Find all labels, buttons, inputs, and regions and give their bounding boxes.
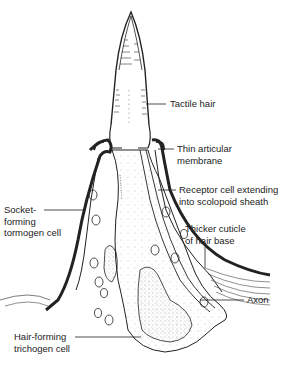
label-socket-forming-tormogen-cell: Socket- forming tormogen cell bbox=[4, 204, 61, 239]
label-thin-articular-membrane: Thin articular membrane bbox=[177, 143, 232, 166]
label-receptor-cell: Receptor cell extending into scolopoid s… bbox=[179, 184, 278, 207]
articular-membrane bbox=[94, 125, 164, 150]
tormogen-cell bbox=[104, 245, 117, 282]
label-hair-forming-trichogen-cell: Hair-forming trichogen cell bbox=[14, 331, 70, 354]
label-axon: Axon bbox=[247, 294, 269, 306]
tactile-hair-shaft bbox=[111, 12, 149, 125]
label-thicker-cuticle: Thicker cuticle of hair base bbox=[185, 223, 246, 246]
label-tactile-hair: Tactile hair bbox=[170, 98, 215, 110]
